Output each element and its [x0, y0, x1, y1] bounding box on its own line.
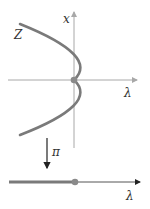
diagram-canvas: Z x λ π λ	[0, 0, 150, 209]
horizontal-axis-top-label: λ	[123, 86, 132, 100]
vertical-axis-label: x	[63, 12, 70, 26]
vertex-point	[71, 77, 78, 84]
projection-label: π	[51, 145, 61, 159]
curve-label: Z	[13, 28, 23, 42]
horizontal-axis-bottom-label: λ	[125, 189, 134, 203]
image-point	[72, 179, 79, 186]
